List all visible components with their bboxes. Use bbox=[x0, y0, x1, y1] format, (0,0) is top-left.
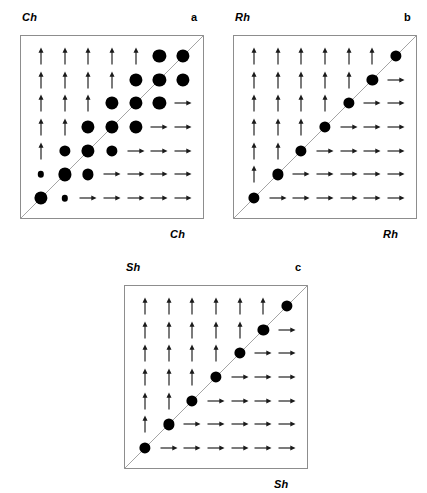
up-arrow-icon bbox=[85, 47, 92, 64]
up-arrow-icon bbox=[141, 321, 148, 338]
matrix-cell bbox=[124, 115, 148, 139]
matrix-dot bbox=[234, 348, 245, 359]
panel-a bbox=[20, 35, 204, 219]
matrix-cell bbox=[361, 139, 385, 163]
matrix-cell bbox=[171, 68, 195, 92]
matrix-cell bbox=[100, 91, 124, 115]
matrix-cell bbox=[361, 186, 385, 210]
up-arrow-icon bbox=[250, 71, 257, 88]
right-arrow-icon bbox=[255, 445, 272, 452]
matrix-cell bbox=[242, 139, 266, 163]
right-arrow-icon bbox=[279, 326, 296, 333]
up-arrow-icon bbox=[141, 392, 148, 409]
matrix-cell bbox=[228, 413, 252, 437]
up-arrow-icon bbox=[141, 368, 148, 385]
up-arrow-icon bbox=[369, 47, 376, 64]
right-arrow-icon bbox=[293, 171, 310, 178]
matrix-cell bbox=[124, 68, 148, 92]
right-arrow-icon bbox=[364, 147, 381, 154]
right-arrow-icon bbox=[207, 445, 224, 452]
matrix-cell bbox=[252, 436, 276, 460]
matrix-cell bbox=[289, 139, 313, 163]
matrix-cell bbox=[100, 163, 124, 187]
matrix-cell bbox=[133, 341, 157, 365]
matrix-dot bbox=[367, 74, 378, 85]
right-arrow-icon bbox=[364, 195, 381, 202]
matrix-cell bbox=[157, 365, 181, 389]
up-arrow-icon bbox=[85, 95, 92, 112]
matrix-cell bbox=[266, 91, 290, 115]
panel-b-letter: b bbox=[404, 11, 411, 23]
up-arrow-icon bbox=[85, 71, 92, 88]
up-arrow-icon bbox=[298, 71, 305, 88]
matrix-cell bbox=[100, 186, 124, 210]
matrix-cell bbox=[53, 91, 77, 115]
right-arrow-icon bbox=[279, 350, 296, 357]
right-arrow-icon bbox=[151, 147, 168, 154]
right-arrow-icon bbox=[184, 421, 201, 428]
up-arrow-icon bbox=[250, 118, 257, 135]
right-arrow-icon bbox=[279, 445, 296, 452]
matrix-cell bbox=[384, 163, 408, 187]
matrix-cell bbox=[53, 115, 77, 139]
matrix-cell bbox=[180, 436, 204, 460]
up-arrow-icon bbox=[61, 118, 68, 135]
matrix-dot bbox=[153, 73, 166, 86]
matrix-cell bbox=[157, 413, 181, 437]
matrix-dot bbox=[282, 300, 293, 311]
right-arrow-icon bbox=[340, 123, 357, 130]
matrix-cell bbox=[148, 115, 172, 139]
up-arrow-icon bbox=[189, 297, 196, 314]
matrix-cell bbox=[53, 186, 77, 210]
matrix-cell bbox=[133, 389, 157, 413]
matrix-cell bbox=[275, 436, 299, 460]
panel-c-top-axis-label: Sh bbox=[126, 261, 140, 273]
up-arrow-icon bbox=[189, 321, 196, 338]
matrix-cell bbox=[275, 365, 299, 389]
matrix-cell bbox=[171, 91, 195, 115]
matrix-cell bbox=[204, 365, 228, 389]
matrix-cell bbox=[148, 163, 172, 187]
matrix-cell bbox=[29, 139, 53, 163]
matrix-cell bbox=[29, 163, 53, 187]
matrix-cell bbox=[361, 44, 385, 68]
matrix-cell bbox=[361, 115, 385, 139]
matrix-cell bbox=[100, 115, 124, 139]
matrix-cell bbox=[337, 68, 361, 92]
right-arrow-icon bbox=[255, 421, 272, 428]
up-arrow-icon bbox=[108, 71, 115, 88]
matrix-cell bbox=[289, 115, 313, 139]
up-arrow-icon bbox=[321, 47, 328, 64]
matrix-dot bbox=[153, 97, 166, 110]
matrix-cell bbox=[171, 186, 195, 210]
right-arrow-icon bbox=[279, 397, 296, 404]
up-arrow-icon bbox=[212, 297, 219, 314]
right-arrow-icon bbox=[388, 76, 405, 83]
matrix-cell bbox=[252, 365, 276, 389]
matrix-dot bbox=[319, 121, 330, 132]
matrix-dot bbox=[58, 168, 71, 181]
matrix-cell bbox=[313, 68, 337, 92]
matrix-cell bbox=[180, 413, 204, 437]
matrix-cell bbox=[29, 68, 53, 92]
matrix-cell bbox=[204, 436, 228, 460]
up-arrow-icon bbox=[321, 95, 328, 112]
matrix-cell bbox=[384, 186, 408, 210]
matrix-cell bbox=[100, 68, 124, 92]
up-arrow-icon bbox=[108, 47, 115, 64]
matrix-cell bbox=[242, 115, 266, 139]
right-arrow-icon bbox=[184, 445, 201, 452]
matrix-cell bbox=[180, 341, 204, 365]
right-arrow-icon bbox=[255, 397, 272, 404]
right-arrow-icon bbox=[151, 195, 168, 202]
matrix-cell bbox=[100, 139, 124, 163]
right-arrow-icon bbox=[388, 147, 405, 154]
up-arrow-icon bbox=[212, 345, 219, 362]
matrix-cell bbox=[361, 91, 385, 115]
up-arrow-icon bbox=[250, 95, 257, 112]
up-arrow-icon bbox=[61, 95, 68, 112]
right-arrow-icon bbox=[175, 147, 192, 154]
matrix-cell bbox=[124, 163, 148, 187]
matrix-dot bbox=[272, 169, 283, 180]
panel-a-top-axis-label: Ch bbox=[22, 11, 37, 23]
